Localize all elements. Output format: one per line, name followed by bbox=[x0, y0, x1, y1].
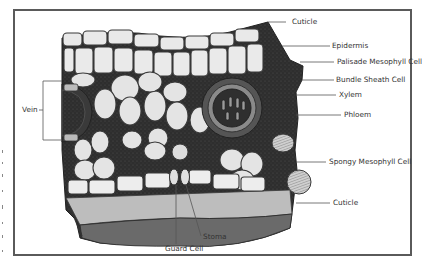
label-stoma: Stoma bbox=[203, 232, 227, 241]
label-phloem: Phloem bbox=[344, 110, 371, 119]
label-bundle-sheath-cell: Bundle Sheath Cell bbox=[336, 75, 405, 84]
label-vein: Vein bbox=[22, 105, 38, 114]
vein-right bbox=[202, 78, 262, 138]
label-guard-cell: Guard Cell bbox=[165, 244, 203, 253]
label-xylem: Xylem bbox=[339, 90, 362, 99]
label-cuticle-top: Cuticle bbox=[292, 17, 317, 26]
lower-epidermis-region bbox=[66, 190, 292, 247]
label-palisade-mesophyll-cell: Palisade Mesophyll Cell bbox=[337, 57, 422, 66]
label-spongy-mesophyll-cell: Spongy Mesophyll Cell bbox=[329, 157, 411, 166]
label-cuticle-bottom: Cuticle bbox=[333, 198, 358, 207]
label-epidermis: Epidermis bbox=[332, 41, 368, 50]
